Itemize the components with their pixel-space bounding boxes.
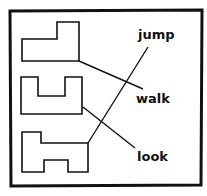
shape-h-outline[interactable] <box>22 132 88 172</box>
line-u-to-look <box>83 107 135 148</box>
line-l-to-walk <box>79 61 143 89</box>
matching-diagram <box>0 0 207 196</box>
word-jump[interactable]: jump <box>138 28 175 41</box>
word-walk[interactable]: walk <box>136 92 170 105</box>
word-look[interactable]: look <box>137 150 168 163</box>
shape-u-outline[interactable] <box>21 77 82 114</box>
shape-l-outline[interactable] <box>22 22 79 61</box>
